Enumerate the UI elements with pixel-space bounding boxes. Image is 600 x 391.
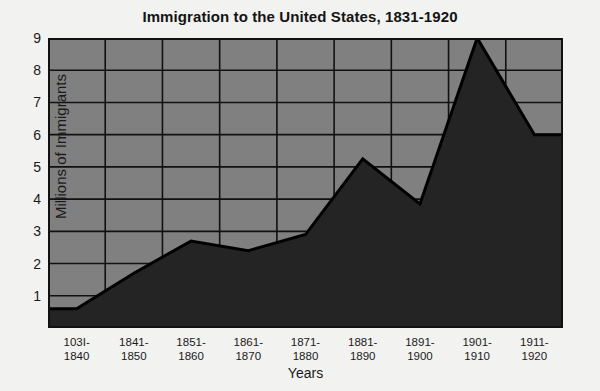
x-axis-tick-label-line: 1891- <box>405 335 434 349</box>
x-axis-tick-label-line: 1870 <box>234 349 263 363</box>
y-axis-tick-label: 1 <box>33 289 41 303</box>
y-axis-tick-label: 5 <box>33 160 41 174</box>
y-axis-tick-label: 4 <box>33 192 41 206</box>
x-axis-tick-label-line: 1840 <box>64 349 90 363</box>
x-axis-tick-label-line: 1901- <box>462 335 491 349</box>
y-axis-tick-label: 7 <box>33 95 41 109</box>
x-axis-tick-label: 1851-1860 <box>176 335 205 363</box>
x-axis-tick-label-line: 103I- <box>64 335 90 349</box>
x-axis-tick-label-line: 1890 <box>348 349 377 363</box>
x-axis-tick-label-line: 1881- <box>348 335 377 349</box>
x-axis-tick-label-line: 1910 <box>462 349 491 363</box>
x-axis-tick-label: 1881-1890 <box>348 335 377 363</box>
y-axis-tick-label: 9 <box>33 31 41 45</box>
y-axis-tick-label: 6 <box>33 128 41 142</box>
x-axis-tick-label-line: 1861- <box>234 335 263 349</box>
x-axis-tick-label-line: 1911- <box>520 335 549 349</box>
x-axis-tick-label: 1841-1850 <box>119 335 148 363</box>
y-axis-tick-label: 3 <box>33 224 41 238</box>
immigration-area-chart: Immigration to the United States, 1831-1… <box>0 0 600 391</box>
x-axis-tick-label-line: 1880 <box>291 349 320 363</box>
x-axis-tick-label-line: 1851- <box>176 335 205 349</box>
y-axis-tick-label: 8 <box>33 63 41 77</box>
x-axis-tick-label: 1861-1870 <box>234 335 263 363</box>
x-axis-tick-label: 1901-1910 <box>462 335 491 363</box>
y-axis-tick-label: 2 <box>33 257 41 271</box>
x-axis-title: Years <box>48 365 563 381</box>
x-axis-tick-label: 1871-1880 <box>291 335 320 363</box>
x-axis-tick-label: 1911-1920 <box>520 335 549 363</box>
x-axis-tick-label-line: 1850 <box>119 349 148 363</box>
x-axis-tick-label: 1891-1900 <box>405 335 434 363</box>
chart-plot-svg <box>48 38 563 328</box>
x-axis-tick-label-line: 1920 <box>520 349 549 363</box>
x-axis-tick-label-line: 1841- <box>119 335 148 349</box>
y-axis-title: Millions of Immigrants <box>52 17 69 277</box>
x-axis-tick-label: 103I-1840 <box>64 335 90 363</box>
x-axis-tick-label-line: 1871- <box>291 335 320 349</box>
plot-area: 123456789 103I-18401841-18501851-1860186… <box>48 38 563 328</box>
x-axis-tick-label-line: 1860 <box>176 349 205 363</box>
x-axis-tick-label-line: 1900 <box>405 349 434 363</box>
chart-title: Immigration to the United States, 1831-1… <box>0 8 600 25</box>
